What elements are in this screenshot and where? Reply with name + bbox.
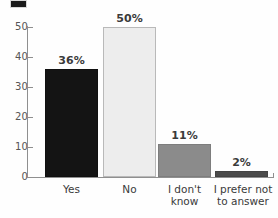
value-label-no: 50% (103, 13, 156, 24)
category-label-i-prefer-not-to-answer: I prefer not to answer (209, 184, 277, 207)
value-label-i-dont-know: 11% (158, 130, 211, 141)
value-label-yes: 36% (45, 55, 98, 66)
bar-yes (45, 69, 98, 177)
y-tick-label-0: 0 (4, 172, 28, 182)
category-label-yes: Yes (40, 184, 103, 196)
bar-i-prefer-not-to-answer (215, 171, 268, 177)
legend-swatch-marker (10, 0, 27, 8)
bar-no (103, 27, 156, 177)
y-tick-label-50: 50 (4, 22, 28, 32)
y-tick-label-10: 10 (4, 142, 28, 152)
x-axis-line (27, 177, 274, 178)
value-label-i-prefer-not-to-answer: 2% (215, 157, 268, 168)
bar-chart: 50 40 30 20 10 0 36% 50% 11% 2% Yes No I… (0, 0, 278, 218)
plot-area (28, 27, 274, 177)
category-label-no: No (98, 184, 161, 196)
y-tick-label-20: 20 (4, 112, 28, 122)
y-tick-label-30: 30 (4, 82, 28, 92)
y-tick-label-40: 40 (4, 52, 28, 62)
bar-i-dont-know (158, 144, 211, 177)
category-label-i-dont-know: I don't know (153, 184, 216, 207)
